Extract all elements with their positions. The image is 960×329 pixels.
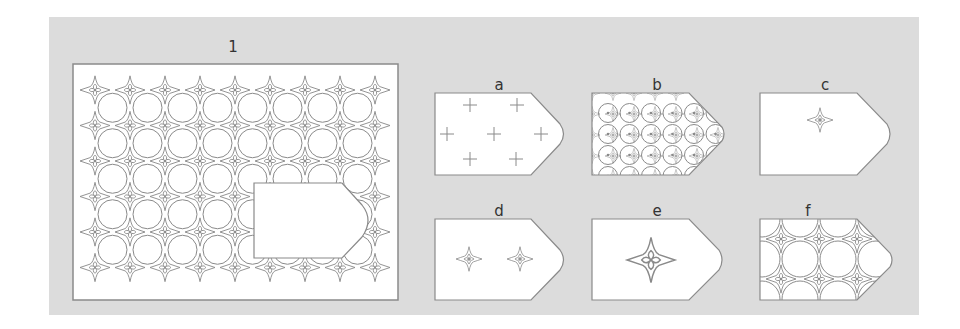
main-hole — [254, 183, 368, 258]
option-d[interactable] — [435, 219, 564, 300]
option-c[interactable] — [760, 93, 890, 175]
main-figure — [73, 64, 398, 300]
star-icon — [710, 169, 726, 184]
option-f[interactable] — [744, 201, 894, 317]
star-icon — [710, 85, 726, 100]
option-a[interactable] — [435, 93, 564, 175]
option-b[interactable] — [584, 85, 726, 185]
option-e[interactable] — [592, 219, 722, 300]
puzzle-figure — [0, 0, 960, 329]
